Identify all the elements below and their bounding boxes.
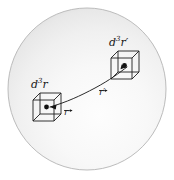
figure-canvas	[0, 0, 174, 180]
cube-d3r-center-dot	[44, 105, 49, 110]
label-d3r-variable: r	[43, 78, 48, 91]
vector-r-arrow-accent-icon	[64, 108, 73, 112]
vector-r-prime-arrow-accent-icon	[99, 88, 108, 92]
vector-r-glyph: r	[64, 108, 68, 117]
label-vector-r: r	[64, 108, 68, 117]
label-d3r-prime-variable: r′	[121, 36, 129, 49]
label-d3r: d3r	[31, 79, 48, 90]
label-vector-r-prime: r′	[99, 88, 105, 97]
label-d3r-prime: d3r′	[109, 37, 128, 48]
physics-figure: d3r d3r′ r r′	[0, 0, 174, 180]
vector-r-prime-glyph: r′	[99, 88, 105, 97]
